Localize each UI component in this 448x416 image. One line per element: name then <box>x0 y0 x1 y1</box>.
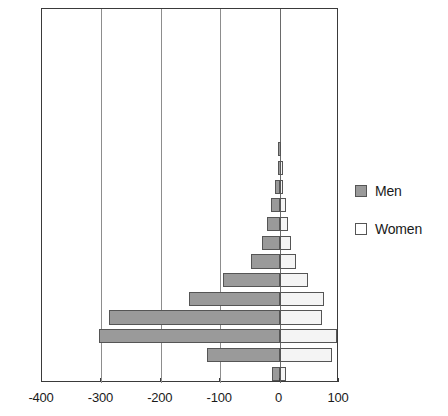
x-tick-label-100: 100 <box>327 391 348 404</box>
legend-swatch-men-icon <box>355 185 367 197</box>
bar-women-45-50 <box>280 198 286 212</box>
bar-men-10-15 <box>99 329 280 343</box>
legend-label-men: Men <box>375 184 402 198</box>
bar-women-35-40 <box>280 236 292 250</box>
gridline <box>161 9 162 383</box>
x-tick-mark-0 <box>279 378 280 382</box>
x-tick-label--400: -400 <box>28 391 53 404</box>
bar-women-50-55 <box>280 180 284 194</box>
bar-men-15-20 <box>109 310 279 324</box>
x-tick-mark--400 <box>41 378 42 382</box>
bar-men-45-50 <box>271 198 279 212</box>
x-tick-label-0: 0 <box>275 391 282 404</box>
bar-women-25-30 <box>280 273 309 287</box>
bar-women-10-15 <box>280 329 337 343</box>
bar-men-40-45 <box>267 217 280 231</box>
x-tick-label--300: -300 <box>88 391 113 404</box>
bar-women-0-5 <box>280 367 286 381</box>
bar-women-30-35 <box>280 254 297 268</box>
y-axis-tick-labels: 0510152025303540455055606570758085909510… <box>0 0 41 416</box>
bar-men-30-35 <box>251 254 280 268</box>
x-tick-mark--300 <box>100 378 101 382</box>
legend-swatch-women-icon <box>355 223 367 235</box>
bar-women-55-60 <box>280 161 283 175</box>
bar-men-35-40 <box>262 236 280 250</box>
bar-women-5-10 <box>280 348 332 362</box>
legend-item-men[interactable]: Men <box>355 184 402 198</box>
gridline <box>101 9 102 383</box>
bar-women-40-45 <box>280 217 288 231</box>
bar-men-5-10 <box>207 348 279 362</box>
legend-item-women[interactable]: Women <box>355 222 422 236</box>
x-tick-mark--200 <box>160 378 161 382</box>
plot-area <box>41 8 338 382</box>
x-tick-mark--100 <box>219 378 220 382</box>
x-tick-label--200: -200 <box>147 391 172 404</box>
x-tick-label--100: -100 <box>207 391 232 404</box>
gridline <box>220 9 221 383</box>
bar-men-60-65 <box>278 142 281 156</box>
population-pyramid-chart: 0510152025303540455055606570758085909510… <box>0 0 448 416</box>
bar-women-15-20 <box>280 310 323 324</box>
legend-label-women: Women <box>375 222 422 236</box>
chart-legend: MenWomen <box>355 0 448 416</box>
x-tick-mark-100 <box>338 378 339 382</box>
bar-women-20-25 <box>280 292 324 306</box>
zero-axis-line <box>280 9 281 383</box>
bar-men-25-30 <box>223 273 279 287</box>
bar-men-20-25 <box>189 292 279 306</box>
